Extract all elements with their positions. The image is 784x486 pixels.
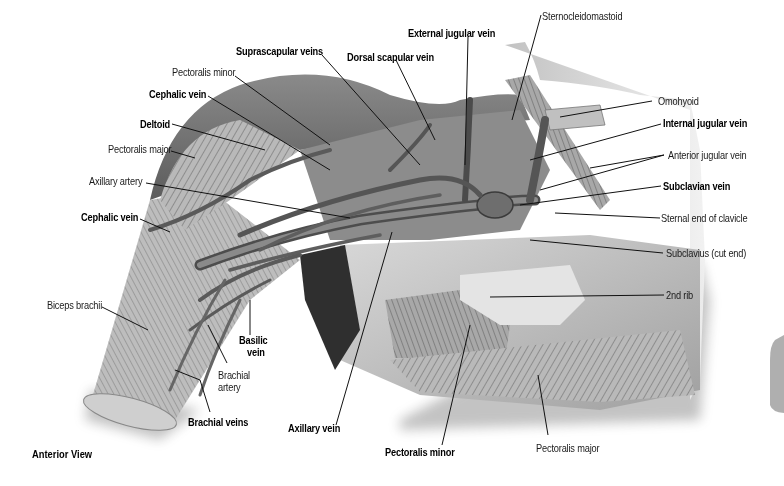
label-cephalic-vein-lower: Cephalic vein xyxy=(81,211,138,223)
label-pectoralis-minor-bottom: Pectoralis minor xyxy=(385,446,455,458)
label-sternal-end-of-clavicle: Sternal end of clavicle xyxy=(661,212,747,224)
label-biceps-brachii: Biceps brachii xyxy=(47,299,102,311)
label-brachial-artery-line2: artery xyxy=(218,381,241,393)
label-anterior-jugular-vein: Anterior jugular vein xyxy=(668,149,746,161)
label-internal-jugular-vein: Internal jugular vein xyxy=(663,117,747,129)
label-basilic-vein-line1: Basilic xyxy=(239,334,268,346)
view-caption: Anterior View xyxy=(32,448,92,460)
label-subclavian-vein: Subclavian vein xyxy=(663,180,730,192)
leader-sternal-end-of-clavicle xyxy=(555,213,660,218)
label-brachial-artery-line1: Brachial xyxy=(218,369,250,381)
label-pectoralis-major-top: Pectoralis major xyxy=(108,143,171,155)
label-second-rib: 2nd rib xyxy=(666,289,693,301)
label-pectoralis-minor-top: Pectoralis minor xyxy=(172,66,235,78)
label-pectoralis-major-bottom: Pectoralis major xyxy=(536,442,599,454)
label-cephalic-vein-top: Cephalic vein xyxy=(149,88,206,100)
label-brachial-veins: Brachial veins xyxy=(188,416,248,428)
label-suprascapular-veins: Suprascapular veins xyxy=(236,45,323,57)
adjacent-figure-edge xyxy=(770,335,784,413)
label-brachial-artery: Brachial artery xyxy=(218,369,250,393)
omohyoid-muscle xyxy=(545,105,605,130)
anatomy-illustration xyxy=(0,0,784,486)
label-deltoid: Deltoid xyxy=(140,118,170,130)
leader-anterior-jugular-vein-a xyxy=(590,155,664,168)
label-omohyoid: Omohyoid xyxy=(658,95,699,107)
label-axillary-artery: Axillary artery xyxy=(89,175,142,187)
anatomy-figure: Suprascapular veins External jugular vei… xyxy=(0,0,784,486)
label-basilic-vein-line2: vein xyxy=(242,346,265,358)
label-sternocleidomastoid: Sternocleidomastoid xyxy=(542,10,622,22)
label-axillary-vein: Axillary vein xyxy=(288,422,340,434)
venous-confluence xyxy=(477,192,513,218)
label-subclavius-cut-end: Subclavius (cut end) xyxy=(666,247,746,259)
leader-anterior-jugular-vein-b xyxy=(540,155,664,190)
label-dorsal-scapular-vein: Dorsal scapular vein xyxy=(347,51,434,63)
label-basilic-vein: Basilic vein xyxy=(239,334,268,358)
label-external-jugular-vein: External jugular vein xyxy=(408,27,495,39)
